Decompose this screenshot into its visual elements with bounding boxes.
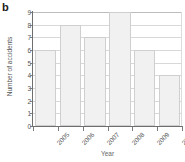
bar xyxy=(109,12,130,126)
bar-series xyxy=(33,12,182,126)
bar xyxy=(134,50,155,126)
x-tick-mark xyxy=(182,127,183,131)
x-tick-label: 2009 xyxy=(155,131,170,146)
x-tick-label: 2006 xyxy=(80,131,95,146)
bar xyxy=(84,37,105,126)
x-tick-label: 2008 xyxy=(130,131,145,146)
bar-chart-figure: b Number of accidents 0123456789 2005200… xyxy=(0,0,185,162)
bar xyxy=(159,75,180,126)
y-axis-title: Number of accidents xyxy=(6,17,13,117)
y-axis-line xyxy=(32,11,33,127)
panel-label: b xyxy=(2,2,9,13)
plot-area xyxy=(33,12,182,126)
x-tick-label: 2010 xyxy=(180,131,185,146)
bar xyxy=(60,25,81,126)
x-axis-title: Year xyxy=(33,150,182,157)
x-tick-label: 2005 xyxy=(56,131,71,146)
x-tick-label: 2007 xyxy=(105,131,120,146)
bar xyxy=(35,50,56,126)
